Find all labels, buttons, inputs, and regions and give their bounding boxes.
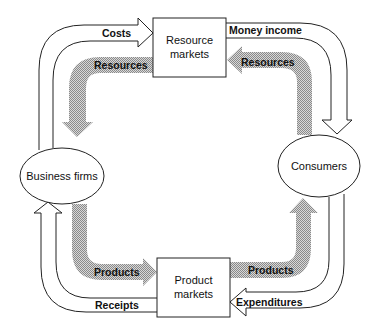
business-firms-label: Business firms (26, 170, 98, 182)
consumers-node: Consumers (278, 135, 360, 197)
resources-right-label: Resources (241, 56, 295, 68)
resource-markets-label-line1: Resource (166, 34, 213, 46)
costs-label: Costs (102, 27, 131, 39)
resources-left-label: Resources (94, 59, 148, 71)
resource-markets-box: Resource markets (153, 18, 226, 77)
receipts-flow-arrow (34, 202, 157, 312)
expenditures-label: Expenditures (236, 296, 303, 308)
money-income-flow-arrow (226, 23, 352, 134)
product-markets-label-line2: markets (174, 288, 214, 300)
receipts-label: Receipts (95, 299, 139, 311)
product-markets-box: Product markets (157, 258, 230, 317)
costs-flow-arrow (39, 18, 153, 150)
business-firms-node: Business firms (20, 148, 104, 204)
circular-flow-diagram: Resource markets Product markets Busines… (0, 0, 379, 334)
resource-markets-label-line2: markets (170, 48, 210, 60)
products-right-label: Products (248, 264, 294, 276)
products-left-label: Products (94, 266, 140, 278)
product-markets-label-line1: Product (175, 274, 213, 286)
money-income-label: Money income (229, 24, 302, 36)
consumers-label: Consumers (291, 160, 348, 172)
